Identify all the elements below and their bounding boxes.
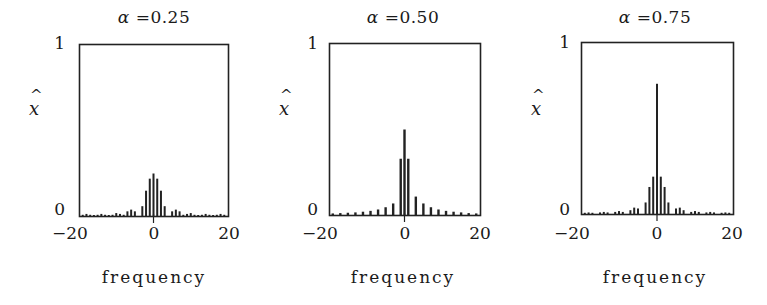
- plot-area: [581, 42, 734, 223]
- y-axis-label: ^ x: [531, 98, 541, 119]
- ytick-1: 1: [550, 32, 570, 52]
- bar: [694, 211, 696, 214]
- bar: [648, 187, 650, 215]
- subplot-title: α =0.75: [619, 7, 692, 27]
- bar: [705, 212, 707, 214]
- bar: [660, 177, 662, 215]
- bar: [690, 212, 692, 215]
- ytick-0: 0: [550, 199, 570, 219]
- bar: [614, 212, 616, 215]
- bar: [683, 210, 685, 214]
- alpha-symbol: α: [619, 7, 631, 27]
- bar: [713, 212, 715, 214]
- bar: [728, 213, 730, 215]
- bar: [622, 212, 624, 215]
- bar: [607, 212, 609, 214]
- bar: [618, 211, 620, 214]
- x-axis-label: frequency: [603, 267, 707, 287]
- xtick-0: 0: [652, 223, 663, 243]
- xtick-neg20: −20: [554, 223, 590, 243]
- hat-accent: ^: [532, 86, 545, 104]
- bar: [664, 187, 666, 215]
- subplot-alpha-075: α =0.75 1 0 ^ x −20 0 20 frequency: [0, 0, 767, 305]
- bar: [679, 208, 681, 215]
- bar: [675, 208, 677, 214]
- alpha-value: =0.75: [637, 7, 692, 27]
- bar: [698, 212, 700, 215]
- bar: [588, 212, 590, 214]
- bar: [656, 84, 658, 215]
- bar: [633, 208, 635, 215]
- bar: [629, 210, 631, 214]
- bar: [645, 202, 647, 214]
- bar: [584, 213, 586, 215]
- bar: [667, 202, 669, 214]
- bar: [591, 213, 593, 215]
- bar: [652, 177, 654, 215]
- bar: [599, 212, 601, 214]
- bar: [603, 212, 605, 215]
- xtick-20: 20: [721, 223, 743, 243]
- bar: [709, 212, 711, 215]
- bar: [724, 212, 726, 214]
- bar: [721, 213, 723, 215]
- bar: [637, 208, 639, 214]
